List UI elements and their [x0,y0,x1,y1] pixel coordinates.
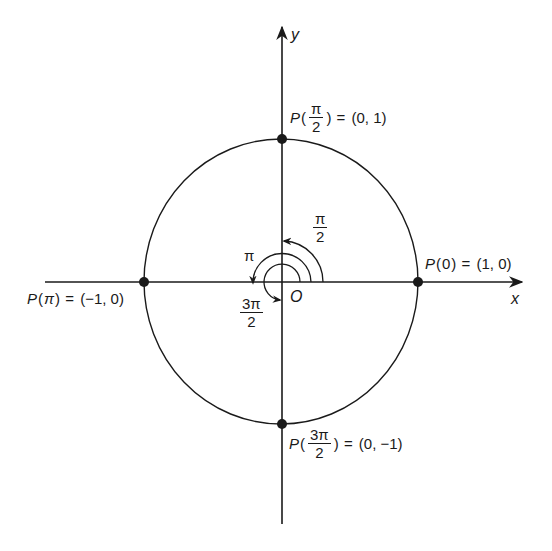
unit-circle-diagram [0,0,552,551]
label-p-half-pi: P ( π 2 ) = (0, 1) [290,101,387,134]
label-fraction: π 2 [309,101,323,134]
point-p0 [413,277,423,287]
angle-label-three-half-pi: 3π 2 [238,296,265,329]
x-axis-label: x [511,291,519,307]
y-axis-label: y [291,27,299,43]
angle-label-half-pi: π 2 [311,211,329,244]
point-p-pi [139,277,149,287]
origin-label: O [290,289,302,305]
angle-label-pi: π [244,248,254,263]
label-fraction: 3π 2 [308,427,331,460]
label-p-pi: P (π) = (−1, 0) [27,291,124,306]
label-p-three-half-pi: P ( 3π 2 ) = (0, −1) [289,427,403,460]
point-p-three-half-pi [277,419,287,429]
label-p0: P (0) = (1, 0) [425,256,511,271]
arc-half-pi [284,241,323,282]
point-p-half-pi [277,134,287,144]
label-prefix: P [290,110,300,125]
